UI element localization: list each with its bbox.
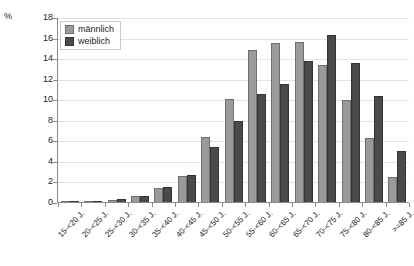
x-axis-tick-label: >=85 J. xyxy=(390,209,414,234)
y-axis-tick-mark xyxy=(53,162,57,163)
y-axis-tick-mark xyxy=(53,121,57,122)
y-axis-tick-mark xyxy=(53,182,57,183)
y-axis-tick-mark xyxy=(53,80,57,81)
y-axis-tick-label: 16 xyxy=(7,33,53,43)
bar-group xyxy=(152,18,175,202)
legend-swatch-male-icon xyxy=(65,25,74,34)
bar-male xyxy=(131,196,140,202)
bar-male xyxy=(388,177,397,202)
y-axis-tick-mark xyxy=(53,203,57,204)
x-axis-tick-mark xyxy=(409,203,410,207)
bar-female xyxy=(93,201,102,202)
bar-group xyxy=(245,18,268,202)
bar-group xyxy=(339,18,362,202)
legend-swatch-female-icon xyxy=(65,37,74,46)
bar-group xyxy=(128,18,151,202)
y-axis-tick-label: 14 xyxy=(7,53,53,63)
bar-female xyxy=(187,175,196,202)
y-axis-tick-label: 2 xyxy=(7,176,53,186)
bar-group xyxy=(175,18,198,202)
bar-male xyxy=(225,99,234,202)
x-axis-tick-labels: 15-<20 J.20-<25 J.25-<30 J.30-<35 J.35-<… xyxy=(58,207,409,265)
bar-female xyxy=(70,201,79,202)
bar-group xyxy=(269,18,292,202)
bar-male xyxy=(61,201,70,202)
bar-male xyxy=(271,43,280,202)
bar-male xyxy=(201,137,210,202)
bar-female xyxy=(163,187,172,202)
bar-male xyxy=(108,200,117,202)
bar-chart: % 181614121086420 15-<20 J.20-<25 J.25-<… xyxy=(0,0,414,266)
bar-female xyxy=(210,147,219,202)
bar-female xyxy=(140,196,149,202)
bar-male xyxy=(248,50,257,202)
bar-male xyxy=(342,100,351,202)
y-axis-tick-label: 8 xyxy=(7,115,53,125)
legend-label-female: weiblich xyxy=(78,37,110,46)
bar-female xyxy=(351,63,360,202)
bar-group xyxy=(222,18,245,202)
y-axis-tick-labels: 181614121086420 xyxy=(0,18,53,203)
y-axis-tick-mark xyxy=(53,141,57,142)
bar-female xyxy=(327,35,336,202)
bar-female xyxy=(117,199,126,202)
y-axis-tick-mark xyxy=(53,100,57,101)
y-axis-tick-label: 18 xyxy=(7,12,53,22)
y-axis-tick-mark xyxy=(53,59,57,60)
bar-female xyxy=(234,121,243,202)
bar-female xyxy=(280,84,289,202)
bar-male xyxy=(295,42,304,202)
bar-male xyxy=(84,201,93,202)
legend-label-male: männlich xyxy=(78,25,114,34)
y-axis-tick-mark xyxy=(53,39,57,40)
bar-male xyxy=(365,138,374,202)
bar-group xyxy=(386,18,409,202)
y-axis-tick-label: 12 xyxy=(7,74,53,84)
y-axis-tick-label: 10 xyxy=(7,94,53,104)
y-axis-tick-mark xyxy=(53,18,57,19)
bar-female xyxy=(374,96,383,202)
bar-group xyxy=(198,18,221,202)
bar-female xyxy=(304,61,313,202)
legend-item-female: weiblich xyxy=(65,37,114,46)
y-axis-tick-label: 4 xyxy=(7,156,53,166)
bar-male xyxy=(318,65,327,202)
legend: männlich weiblich xyxy=(60,21,121,50)
legend-item-male: männlich xyxy=(65,25,114,34)
bar-group xyxy=(362,18,385,202)
bar-female xyxy=(397,151,406,202)
bar-male xyxy=(154,188,163,202)
y-axis-tick-label: 0 xyxy=(7,197,53,207)
bar-group xyxy=(315,18,338,202)
y-axis-tick-label: 6 xyxy=(7,135,53,145)
bar-group xyxy=(292,18,315,202)
bar-female xyxy=(257,94,266,202)
bar-male xyxy=(178,176,187,202)
